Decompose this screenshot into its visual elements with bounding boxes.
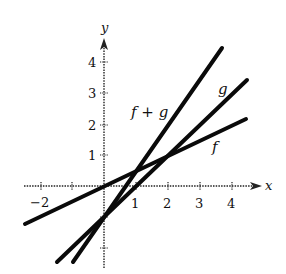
- y-tick-label: 3: [88, 86, 96, 101]
- series-g-label: g: [218, 80, 228, 98]
- x-tick-label: 1: [131, 196, 139, 211]
- y-tick-label: 1: [88, 148, 96, 163]
- series-f-plus-g-label: f + g: [130, 103, 168, 121]
- x-tick-label: 3: [195, 196, 203, 211]
- y-axis-label: y: [100, 20, 109, 35]
- x-tick-label: −2: [30, 195, 49, 210]
- x-axis-label: x: [265, 178, 273, 193]
- y-tick-label: 4: [88, 55, 96, 70]
- y-tick-label: 2: [88, 118, 96, 133]
- series-f-label: f: [211, 138, 220, 156]
- function-graph: x −2 1 2 3 4 y 1 2 3 4 f + g g f: [0, 0, 286, 274]
- x-tick-label: 4: [227, 196, 235, 211]
- x-tick-label: 2: [163, 196, 171, 211]
